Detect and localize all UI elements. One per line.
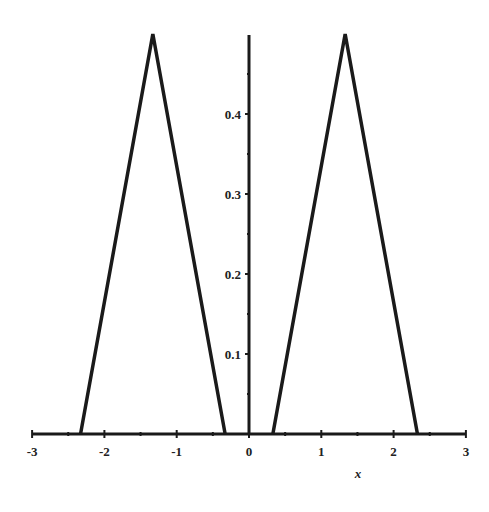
x-tick-label: 1 bbox=[318, 444, 325, 459]
x-tick-label: 3 bbox=[463, 444, 470, 459]
x-tick-label: -3 bbox=[27, 444, 38, 459]
y-tick-label: 0.3 bbox=[225, 187, 242, 202]
y-tick-label: 0.4 bbox=[225, 107, 242, 122]
x-tick-label: 0 bbox=[246, 444, 253, 459]
x-tick-label: -2 bbox=[99, 444, 110, 459]
x-tick-label: -1 bbox=[171, 444, 182, 459]
series-line-1 bbox=[81, 34, 226, 434]
series-line-2 bbox=[273, 34, 418, 434]
plot-area: -3-2-101230.10.20.30.4x bbox=[27, 34, 470, 481]
chart: -3-2-101230.10.20.30.4x bbox=[0, 0, 489, 512]
x-axis-label: x bbox=[354, 466, 362, 481]
y-tick-label: 0.1 bbox=[225, 347, 241, 362]
y-tick-label: 0.2 bbox=[225, 267, 241, 282]
x-tick-label: 2 bbox=[390, 444, 397, 459]
